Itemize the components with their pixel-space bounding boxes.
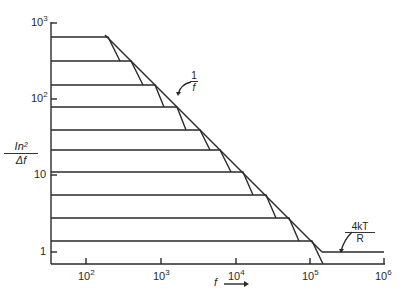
y-tick-100: 102 <box>31 90 48 104</box>
y-axis-label-denominator: Δf <box>4 154 38 166</box>
y-axis-label-numerator: In² <box>4 140 38 154</box>
one-over-f-annotation: 1 f <box>190 70 198 93</box>
thermal-noise-annotation: 4kT R <box>345 221 375 244</box>
y-tick-1000: 103 <box>31 14 48 28</box>
x-tick-1000000: 106 <box>375 268 392 282</box>
y-axis-label: In² Δf <box>4 140 38 166</box>
plot-area <box>0 0 403 296</box>
x-tick-100: 102 <box>78 268 95 282</box>
y-tick-10: 10 <box>34 168 46 180</box>
x-tick-1000: 103 <box>153 268 170 282</box>
x-axis-label: f <box>214 276 217 288</box>
y-tick-1: 1 <box>40 245 46 257</box>
noise-curves <box>51 37 323 264</box>
x-tick-10000: 104 <box>228 268 245 282</box>
x-tick-100000: 105 <box>302 268 319 282</box>
